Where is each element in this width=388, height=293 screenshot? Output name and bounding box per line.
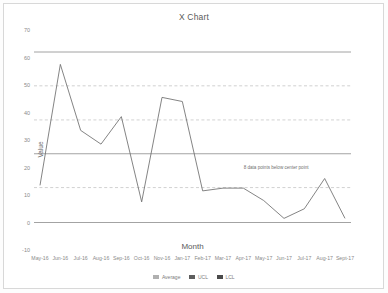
y-tick-label: 70 [8, 27, 30, 33]
y-tick-label: 40 [8, 110, 30, 116]
legend-label: UCL [198, 274, 208, 280]
x-axis-title: Month [34, 242, 351, 251]
y-tick-label: 0 [8, 220, 30, 226]
legend-item-ucl[interactable]: UCL [189, 274, 208, 280]
y-tick-label: -10 [8, 247, 30, 253]
x-tick-label: Sept-17 [328, 255, 362, 261]
chart-svg [34, 30, 351, 250]
control-lines-group [34, 52, 351, 223]
y-tick-label: 50 [8, 82, 30, 88]
legend-swatch-icon [153, 275, 159, 279]
series-line-average [40, 64, 345, 218]
y-tick-label: 10 [8, 192, 30, 198]
legend-swatch-icon [189, 275, 195, 279]
y-tick-label: 20 [8, 165, 30, 171]
y-axis-title: Value [37, 120, 44, 180]
y-tick-label: 60 [8, 55, 30, 61]
x-chart-card: X Chart 706050403020100-10 May-16Jun-16J… [0, 0, 388, 293]
legend-label: LCL [225, 274, 234, 280]
plot-area: 706050403020100-10 May-16Jun-16Jul-16Aug… [34, 30, 351, 250]
legend-item-average[interactable]: Average [153, 274, 180, 280]
data-series-group [40, 64, 345, 218]
y-tick-label: 30 [8, 137, 30, 143]
chart-legend: AverageUCLLCL [0, 274, 388, 280]
chart-title: X Chart [0, 12, 388, 22]
legend-item-lcl[interactable]: LCL [217, 274, 235, 280]
legend-label: Average [162, 274, 181, 280]
control-rule-annotation: 8 data points below center point [244, 165, 309, 170]
legend-swatch-icon [217, 275, 223, 279]
